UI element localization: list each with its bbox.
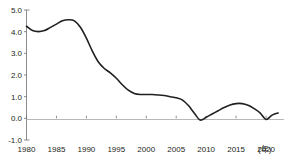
line-chart: 5.04.03.02.01.00.0-1.0 19801985199019952… [0, 0, 288, 162]
y-tick-labels: 5.04.03.02.01.00.0-1.0 [8, 6, 22, 145]
x-tick-label: 2010 [197, 145, 215, 154]
y-tick-label: 4.0 [11, 28, 23, 37]
y-tick-label: 1.0 [11, 93, 23, 102]
x-tick-label: 1990 [77, 145, 95, 154]
y-axis-group: 5.04.03.02.01.00.0-1.0 [8, 6, 26, 145]
series-group [27, 20, 279, 120]
x-axis-group: 198019851990199520002005201020152020 (年) [18, 10, 284, 154]
x-tick-label: 1980 [18, 145, 36, 154]
x-tick-label: 2000 [137, 145, 155, 154]
x-tick-label: 2015 [227, 145, 245, 154]
x-tick-label: 1995 [107, 145, 125, 154]
y-tick-label: 3.0 [11, 49, 23, 58]
x-tick-marks [27, 10, 267, 140]
x-tick-labels: 198019851990199520002005201020152020 [18, 145, 276, 154]
chart-container: 5.04.03.02.01.00.0-1.0 19801985199019952… [0, 0, 288, 162]
y-tick-label: -1.0 [8, 136, 22, 145]
x-tick-label: 2005 [167, 145, 185, 154]
y-tick-label: 0.0 [11, 114, 23, 123]
x-axis-unit-label: (年) [258, 144, 272, 154]
data-series-line [27, 20, 279, 120]
x-tick-label: 1985 [48, 145, 66, 154]
y-tick-label: 2.0 [11, 71, 23, 80]
y-tick-label: 5.0 [11, 6, 23, 15]
